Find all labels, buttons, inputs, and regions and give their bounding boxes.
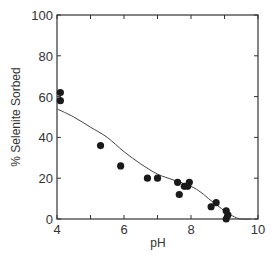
data-point bbox=[154, 175, 161, 182]
y-tick-label: 0 bbox=[46, 212, 53, 227]
data-point bbox=[213, 199, 220, 206]
y-axis-label: % Selenite Sorbed bbox=[9, 67, 23, 166]
data-point bbox=[57, 97, 64, 104]
plot-frame bbox=[57, 15, 258, 219]
data-points bbox=[57, 89, 232, 223]
x-tick-label: 6 bbox=[120, 222, 127, 237]
data-point bbox=[144, 175, 151, 182]
x-tick-label: 4 bbox=[53, 222, 60, 237]
x-axis-label: pH bbox=[150, 236, 165, 250]
y-tick-label: 40 bbox=[39, 130, 53, 145]
data-point bbox=[186, 179, 193, 186]
y-tick-label: 20 bbox=[39, 171, 53, 186]
y-tick-label: 80 bbox=[39, 49, 53, 64]
x-tick-label: 8 bbox=[187, 222, 194, 237]
x-tick-label: 10 bbox=[251, 222, 265, 237]
plot-border bbox=[57, 15, 258, 219]
data-point bbox=[174, 179, 181, 186]
data-point bbox=[57, 89, 64, 96]
data-point bbox=[117, 162, 124, 169]
y-tick-label: 100 bbox=[31, 8, 53, 23]
fit-curve bbox=[57, 109, 251, 219]
data-point bbox=[223, 215, 230, 222]
chart: 46810020406080100 pH % Selenite Sorbed bbox=[0, 0, 276, 262]
data-point bbox=[176, 191, 183, 198]
data-point bbox=[97, 142, 104, 149]
axis-ticks bbox=[57, 15, 258, 219]
tick-labels: 46810020406080100 bbox=[31, 8, 265, 237]
y-tick-label: 60 bbox=[39, 90, 53, 105]
